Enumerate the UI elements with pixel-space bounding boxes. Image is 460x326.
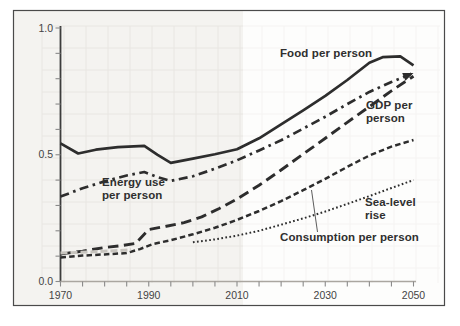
y-tick-label: 1.0	[38, 22, 53, 34]
series-label-energy-use-per-person: Energy use per person	[102, 176, 176, 202]
series-label-gdp-per-person: GDP per person	[366, 99, 420, 125]
y-tick-label: 0.5	[38, 148, 53, 160]
x-tick-label: 2030	[314, 289, 338, 301]
series-label-sea-level-rise: Sea-level rise	[365, 196, 423, 222]
chart-canvas: 0.00.51.019701990201020302050	[0, 0, 460, 326]
y-tick-label: 0.0	[38, 275, 53, 287]
figure: 0.00.51.019701990201020302050 Food per p…	[0, 0, 460, 326]
x-tick-label: 2050	[402, 289, 426, 301]
x-tick-label: 1970	[49, 289, 73, 301]
series-label-food-per-person: Food per person	[280, 47, 380, 60]
x-tick-label: 1990	[137, 289, 161, 301]
x-tick-label: 2010	[225, 289, 249, 301]
series-label-consumption-per-person: Consumption per person	[280, 231, 420, 244]
